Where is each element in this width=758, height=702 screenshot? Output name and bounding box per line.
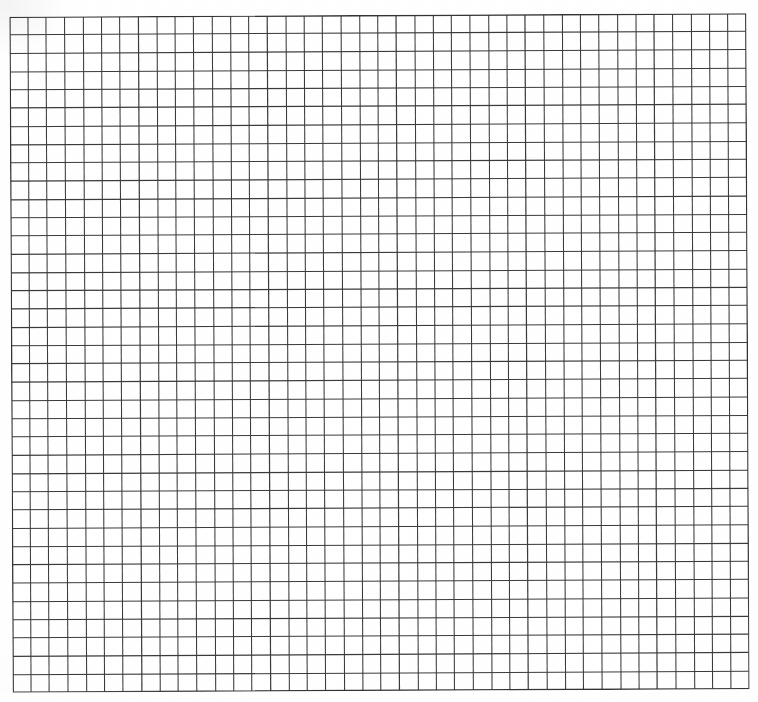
grid-line-vertical <box>673 14 677 689</box>
grid-line-vertical <box>378 16 381 691</box>
grid-line-vertical <box>525 15 528 690</box>
grid-line-vertical <box>230 16 233 691</box>
grid-line-vertical <box>212 16 215 691</box>
grid-line-vertical <box>709 14 713 689</box>
grid-line-vertical <box>396 16 399 691</box>
grid-line-vertical <box>470 15 474 690</box>
grid-line-vertical <box>286 16 289 691</box>
grid-line-vertical <box>28 17 31 692</box>
grid-line-vertical <box>618 14 621 689</box>
grid-line-vertical <box>267 16 271 691</box>
grid-line-vertical <box>507 15 511 690</box>
grid-line-vertical <box>728 14 731 689</box>
grid-line-vertical <box>304 16 308 691</box>
grid-line-vertical <box>489 15 492 690</box>
grid-line-vertical <box>341 16 345 691</box>
grid-line-vertical <box>175 17 178 692</box>
grid-line-vertical <box>46 17 49 692</box>
grid-line-vertical <box>544 15 548 690</box>
grid-line-vertical <box>360 16 363 691</box>
grid-vertical-lines <box>28 14 731 692</box>
grid-line-vertical <box>636 14 639 689</box>
grid-line-vertical <box>580 15 583 690</box>
grid-line-vertical <box>65 17 69 692</box>
grid-line-vertical <box>562 15 565 690</box>
grid-line-vertical <box>654 14 657 689</box>
grid-line-vertical <box>120 17 123 692</box>
grid-line-vertical <box>101 17 105 692</box>
grid-line-vertical <box>691 14 694 689</box>
grid-line-vertical <box>451 15 454 690</box>
grid-line-vertical <box>193 17 196 692</box>
grid-line-vertical <box>157 17 160 692</box>
graph-paper-page: Blank graph paper sheet <box>0 0 758 702</box>
grid-line-vertical <box>599 15 602 690</box>
grid-line-vertical <box>248 16 251 691</box>
grid-line-vertical <box>322 16 325 691</box>
grid-area <box>9 13 749 693</box>
grid-line-vertical <box>433 15 436 690</box>
grid-line-vertical <box>415 15 418 690</box>
grid-line-vertical <box>83 17 86 692</box>
grid-line-vertical <box>138 17 142 692</box>
grid-lines-svg <box>9 13 749 693</box>
